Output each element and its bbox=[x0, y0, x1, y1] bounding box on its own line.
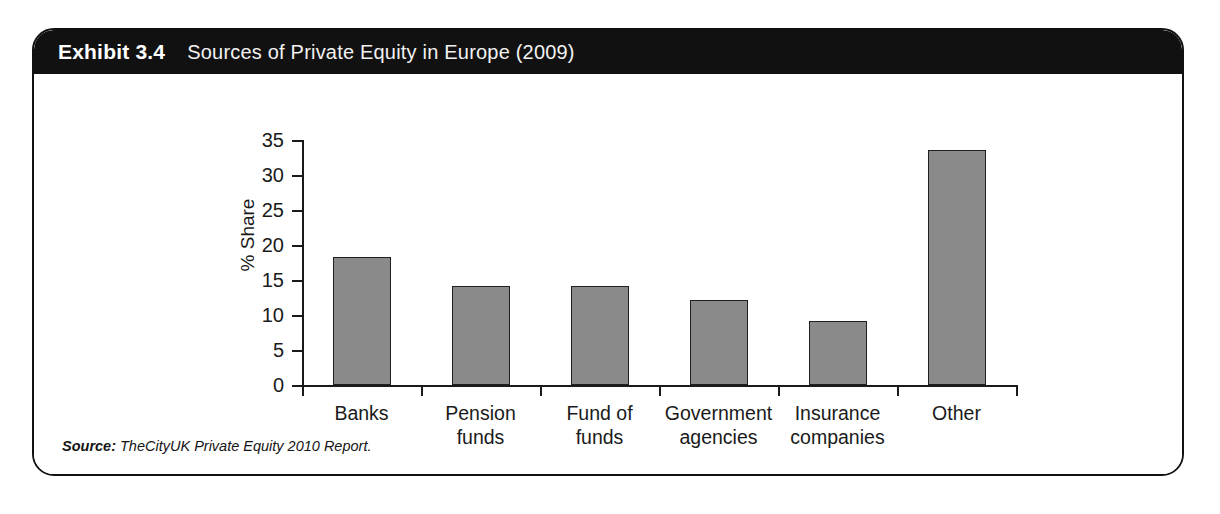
bar bbox=[333, 257, 391, 385]
y-tick-label: 0 bbox=[273, 374, 284, 397]
y-tick-label: 30 bbox=[262, 164, 284, 187]
exhibit-number: Exhibit 3.4 bbox=[58, 40, 165, 64]
y-tick-mark bbox=[292, 245, 303, 247]
y-tick-20: 20 bbox=[292, 245, 303, 247]
bar bbox=[690, 300, 748, 385]
exhibit-frame: Exhibit 3.4 Sources of Private Equity in… bbox=[32, 28, 1184, 476]
exhibit-header-bar: Exhibit 3.4 Sources of Private Equity in… bbox=[34, 30, 1182, 74]
y-axis-title: % Share bbox=[237, 199, 259, 272]
y-tick-label: 5 bbox=[273, 339, 284, 362]
y-tick-mark bbox=[292, 210, 303, 212]
y-tick-label: 25 bbox=[262, 199, 284, 222]
y-tick-10: 10 bbox=[292, 315, 303, 317]
x-tick-mark bbox=[421, 385, 423, 396]
y-tick-label: 15 bbox=[262, 269, 284, 292]
source-label: Source: bbox=[62, 438, 116, 454]
source-text: TheCityUK Private Equity 2010 Report. bbox=[120, 438, 371, 454]
y-tick-mark bbox=[292, 315, 303, 317]
y-tick-label: 20 bbox=[262, 234, 284, 257]
chart-body: % Share 05101520253035 BanksPension fund… bbox=[34, 74, 1182, 476]
x-tick-mark bbox=[1016, 385, 1018, 396]
exhibit-title: Sources of Private Equity in Europe (200… bbox=[187, 41, 575, 64]
y-tick-mark bbox=[292, 140, 303, 142]
y-tick-15: 15 bbox=[292, 280, 303, 282]
bar bbox=[809, 321, 867, 385]
y-tick-label: 35 bbox=[262, 129, 284, 152]
y-tick-mark bbox=[292, 175, 303, 177]
y-tick-35: 35 bbox=[292, 140, 303, 142]
x-tick-mark bbox=[540, 385, 542, 396]
y-tick-label: 10 bbox=[262, 304, 284, 327]
category-label: Other bbox=[882, 402, 1032, 426]
x-tick-mark bbox=[659, 385, 661, 396]
x-tick-mark bbox=[778, 385, 780, 396]
x-tick-mark bbox=[302, 385, 304, 396]
source-line: Source:TheCityUK Private Equity 2010 Rep… bbox=[62, 438, 371, 454]
y-tick-5: 5 bbox=[292, 350, 303, 352]
bar bbox=[928, 150, 986, 385]
bar bbox=[452, 286, 510, 385]
y-tick-mark bbox=[292, 280, 303, 282]
x-tick-mark bbox=[897, 385, 899, 396]
y-tick-25: 25 bbox=[292, 210, 303, 212]
y-tick-30: 30 bbox=[292, 175, 303, 177]
y-tick-mark bbox=[292, 350, 303, 352]
bar-chart-plot-area: % Share 05101520253035 BanksPension fund… bbox=[270, 94, 1022, 434]
bar bbox=[571, 286, 629, 385]
